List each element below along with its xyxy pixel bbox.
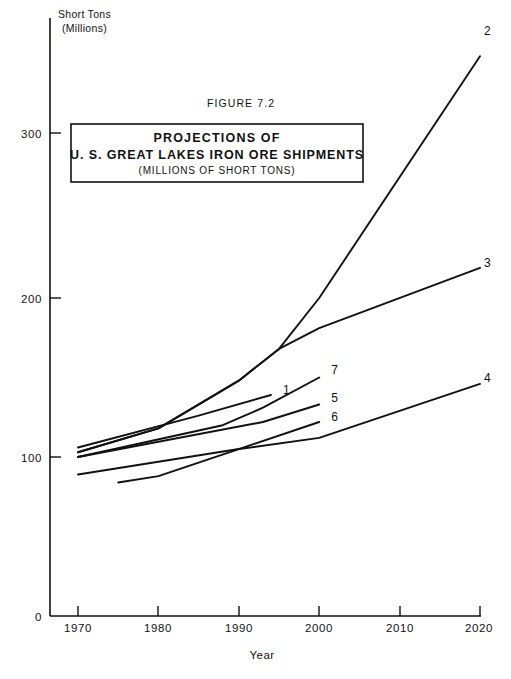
x-axis-title: Year <box>249 649 274 661</box>
x-tick-label-1970: 1970 <box>64 622 92 634</box>
title-line-2: U. S. GREAT LAKES IRON ORE SHIPMENTS <box>70 148 364 162</box>
series-group <box>78 56 480 482</box>
series-tag-group: 2347156 <box>283 24 491 424</box>
x-tick-label-1980: 1980 <box>144 622 172 634</box>
x-tick-label-2020: 2020 <box>465 622 493 634</box>
y-axis-unit-line-2: (Millions) <box>62 22 107 34</box>
series-line-3 <box>78 268 480 452</box>
series-tag-4: 4 <box>484 371 491 385</box>
y-axis-ticks <box>50 133 61 457</box>
figure-number-label: FIGURE 7.2 <box>207 97 275 109</box>
y-tick-label-100: 100 <box>21 452 42 464</box>
title-line-3: (MILLIONS OF SHORT TONS) <box>139 165 296 176</box>
x-axis-ticks <box>78 606 480 616</box>
series-tag-3: 3 <box>484 256 491 270</box>
series-tag-1: 1 <box>283 383 290 397</box>
series-tag-7: 7 <box>331 363 338 377</box>
series-line-2 <box>78 56 480 452</box>
series-line-4 <box>78 384 480 475</box>
y-tick-label-300: 300 <box>21 128 42 140</box>
iron-ore-shipments-line-chart: 300 200 100 0 1970 1980 1990 2000 2010 2… <box>0 0 511 679</box>
x-tick-label-2000: 2000 <box>305 622 333 634</box>
title-line-1: PROJECTIONS OF <box>153 131 280 145</box>
y-tick-label-0: 0 <box>35 611 42 623</box>
series-tag-5: 5 <box>331 391 338 405</box>
x-tick-label-1990: 1990 <box>225 622 253 634</box>
y-axis-unit-line-1: Short Tons <box>58 8 111 20</box>
series-tag-6: 6 <box>331 410 338 424</box>
y-tick-label-200: 200 <box>21 293 42 305</box>
x-tick-label-2010: 2010 <box>386 622 414 634</box>
figure-container: 300 200 100 0 1970 1980 1990 2000 2010 2… <box>0 0 511 679</box>
series-tag-2: 2 <box>484 24 491 38</box>
